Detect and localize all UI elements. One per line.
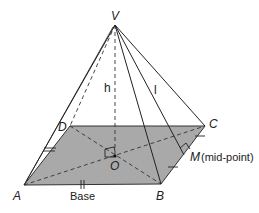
label-mid-point: (mid-point) bbox=[201, 151, 254, 163]
label-V: V bbox=[111, 9, 120, 23]
edge-VD bbox=[70, 25, 115, 126]
label-B: B bbox=[156, 189, 164, 203]
label-D: D bbox=[58, 120, 67, 134]
label-base: Base bbox=[70, 190, 95, 202]
label-slant: l bbox=[154, 83, 157, 97]
pyramid-svg: V A B C D O M (mid-point) h l Base bbox=[0, 0, 259, 213]
label-height: h bbox=[104, 81, 111, 95]
pyramid-diagram: V A B C D O M (mid-point) h l Base bbox=[0, 0, 259, 213]
label-A: A bbox=[12, 189, 21, 203]
label-O: O bbox=[110, 159, 119, 173]
label-M: M bbox=[190, 150, 200, 164]
edge-VC bbox=[115, 25, 205, 126]
point-O bbox=[113, 154, 116, 157]
label-C: C bbox=[209, 117, 218, 131]
